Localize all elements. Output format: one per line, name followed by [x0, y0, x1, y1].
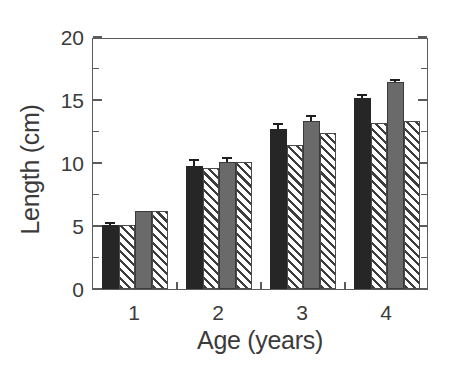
- bar: [303, 121, 320, 289]
- error-bar-cap: [357, 94, 367, 96]
- error-bar: [390, 79, 400, 83]
- y-axis-tick-label: 15: [38, 90, 84, 111]
- y-axis-tick-label: 10: [38, 153, 84, 174]
- error-bar-cap: [306, 115, 316, 117]
- y-axis-minor-tick: [93, 257, 99, 259]
- x-axis-tick-label: 3: [272, 302, 332, 323]
- bar: [119, 225, 136, 289]
- y-axis-tick-label: 0: [38, 279, 84, 300]
- y-axis-major-tick-right: [418, 36, 427, 38]
- bar: [404, 121, 421, 289]
- x-axis-tick-label: 2: [188, 302, 248, 323]
- x-axis-tick: [176, 282, 178, 289]
- y-axis-major-tick-right: [418, 99, 427, 101]
- error-bar: [306, 115, 316, 121]
- y-axis-minor-tick: [93, 131, 99, 133]
- bar: [320, 133, 337, 289]
- bar: [387, 82, 404, 289]
- y-axis-minor-tick-right: [421, 257, 427, 259]
- bar: [135, 211, 152, 289]
- y-axis-minor-tick-right: [421, 194, 427, 196]
- y-axis-major-tick: [93, 162, 102, 164]
- error-bar-cap: [222, 157, 232, 159]
- y-axis-major-tick: [93, 99, 102, 101]
- y-axis-major-tick: [93, 225, 102, 227]
- error-bar-cap: [189, 159, 199, 161]
- bar: [371, 123, 388, 289]
- bar: [203, 168, 220, 289]
- bar: [186, 166, 203, 289]
- bar-chart-figure: Length (cm) Age (years) 05101520 1234: [0, 0, 455, 365]
- y-axis-minor-tick: [93, 194, 99, 196]
- error-bar: [189, 159, 199, 166]
- bar: [219, 162, 236, 289]
- error-bar: [357, 94, 367, 98]
- bar: [354, 98, 371, 289]
- error-bar: [273, 123, 283, 129]
- bar: [270, 129, 287, 289]
- bar: [152, 211, 169, 289]
- y-axis-tick-label: 5: [38, 216, 84, 237]
- x-axis-title: Age (years): [92, 326, 428, 355]
- error-bar-cap: [390, 79, 400, 81]
- x-axis-tick: [344, 282, 346, 289]
- error-bar-cap: [273, 123, 283, 125]
- y-axis-minor-tick-right: [421, 131, 427, 133]
- error-bar: [222, 157, 232, 163]
- y-axis-major-tick: [93, 36, 102, 38]
- x-axis-tick: [260, 282, 262, 289]
- x-axis-tick-label: 1: [104, 302, 164, 323]
- error-bar-cap: [105, 222, 115, 224]
- plot-area: [92, 38, 428, 290]
- error-bar: [105, 222, 115, 225]
- y-axis-minor-tick-right: [421, 68, 427, 70]
- bar: [102, 225, 119, 289]
- y-axis-major-tick: [93, 288, 102, 290]
- bar: [236, 162, 253, 289]
- bar: [287, 145, 304, 289]
- x-axis-tick-label: 4: [356, 302, 416, 323]
- y-axis-tick-label: 20: [38, 27, 84, 48]
- y-axis-minor-tick: [93, 68, 99, 70]
